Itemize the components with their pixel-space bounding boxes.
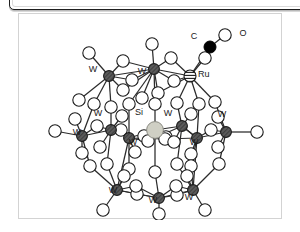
atom-W3 bbox=[106, 125, 117, 136]
structure-svg: W W Ru C O W Si W W W W W W W W bbox=[19, 14, 283, 220]
page-chrome-inner bbox=[12, 0, 300, 7]
page-chrome-partial bbox=[9, 0, 300, 10]
label-W-lower-right: W bbox=[190, 137, 199, 147]
label-W-mid-upper-left: W bbox=[94, 108, 103, 118]
atom-W8 bbox=[221, 127, 232, 138]
label-W-mid-left: W bbox=[73, 127, 82, 137]
molecular-structure-diagram: W W Ru C O W Si W W W W W W W W bbox=[19, 14, 283, 220]
atom-W1 bbox=[104, 71, 115, 82]
figure-frame: W W Ru C O W Si W W W W W W W W bbox=[18, 13, 282, 219]
label-W-bottom-left: W bbox=[109, 185, 118, 195]
atom-W6 bbox=[177, 121, 188, 132]
label-W-top-center: W bbox=[138, 66, 147, 76]
label-W-bottom-right: W bbox=[185, 192, 194, 202]
atom-Si-center bbox=[147, 122, 164, 139]
label-Ru: Ru bbox=[198, 69, 210, 79]
label-Si: Si bbox=[135, 107, 143, 117]
label-W-mid-right: W bbox=[218, 109, 227, 119]
label-C: C bbox=[191, 31, 198, 41]
atom-label-group: W W Ru C O W Si W W W W W W W W bbox=[73, 28, 247, 205]
atom-C-carbonyl bbox=[204, 41, 216, 53]
label-W-lower-center: W bbox=[129, 137, 138, 147]
label-O-carbonyl: O bbox=[239, 28, 246, 38]
label-W-bottom-center: W bbox=[149, 195, 158, 205]
atom-W2 bbox=[149, 64, 160, 75]
label-W-mid-center: W bbox=[164, 108, 173, 118]
label-W-top-left: W bbox=[89, 64, 98, 74]
atom-O-carbonyl bbox=[219, 29, 231, 41]
atom-Ru bbox=[184, 70, 196, 82]
